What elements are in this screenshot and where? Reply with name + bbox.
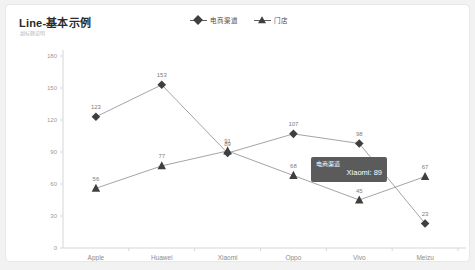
series-line-1 xyxy=(96,85,425,224)
tooltip-value: Xiaomi: 89 xyxy=(316,168,382,178)
data-point-label: 45 xyxy=(356,188,363,194)
y-axis-tick-label: 0 xyxy=(54,245,58,251)
data-point-marker[interactable] xyxy=(289,130,298,139)
data-point-marker[interactable] xyxy=(355,195,363,203)
y-axis-tick-label: 180 xyxy=(47,53,58,59)
x-axis-tick-label: Xiaomi xyxy=(218,254,238,261)
data-point-label: 91 xyxy=(224,138,231,144)
y-axis-tick-label: 60 xyxy=(50,181,57,187)
data-point-label: 56 xyxy=(93,176,100,182)
chart-card: Line-基本示例 副标题说明 电商渠道 门店 0306090120150180… xyxy=(5,4,470,262)
x-axis-tick-label: Vivo xyxy=(353,254,366,261)
x-axis-tick-label: Apple xyxy=(88,254,105,262)
data-point-label: 107 xyxy=(288,121,299,127)
x-axis-tick-label: Huawei xyxy=(151,254,173,261)
tooltip-series-name: 电商渠道 xyxy=(316,160,382,168)
data-point-label: 67 xyxy=(422,164,429,170)
y-axis-tick-label: 150 xyxy=(47,85,58,91)
chart-tooltip: 电商渠道 Xiaomi: 89 xyxy=(311,157,387,182)
x-axis-tick-label: Oppo xyxy=(285,254,301,262)
data-point-label: 23 xyxy=(422,211,429,217)
data-point-label: 68 xyxy=(290,163,297,169)
y-axis-tick-label: 120 xyxy=(47,117,58,123)
y-axis-tick-label: 90 xyxy=(50,149,57,155)
y-axis-tick-label: 30 xyxy=(50,213,57,219)
data-point-marker[interactable] xyxy=(421,172,429,180)
x-axis-tick-label: Meizu xyxy=(416,254,434,261)
data-point-label: 98 xyxy=(356,131,363,137)
data-point-label: 153 xyxy=(157,72,168,78)
data-point-label: 123 xyxy=(91,104,102,110)
line-chart-plot: 0306090120150180AppleHuaweiXiaomiOppoViv… xyxy=(6,5,470,262)
data-point-label: 77 xyxy=(158,153,165,159)
data-point-marker[interactable] xyxy=(92,113,101,122)
data-point-marker[interactable] xyxy=(289,171,297,179)
